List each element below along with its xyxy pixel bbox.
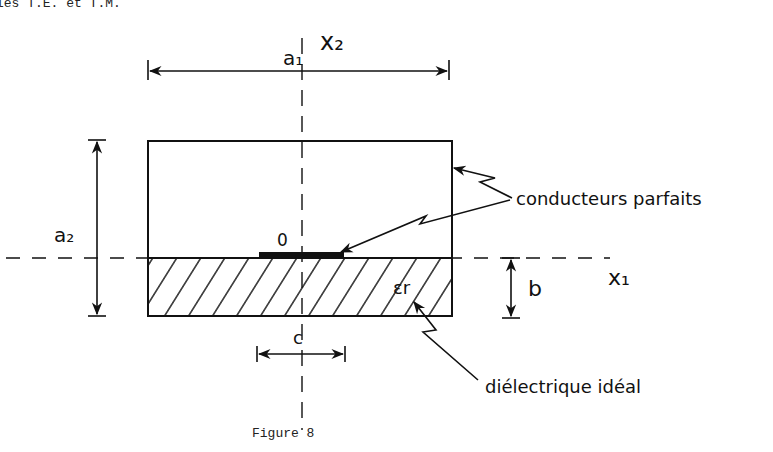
a1-label: a₁ bbox=[283, 46, 303, 70]
c-dimension bbox=[257, 346, 345, 362]
waveguide-diagram: x₂ a₁ a₂ 0 b x₁ εr c conducteurs parfait… bbox=[0, 0, 773, 452]
dielectric-label: diélectrique idéal bbox=[485, 376, 641, 397]
c-label: c bbox=[293, 327, 303, 348]
epsilon-r-label: εr bbox=[393, 277, 411, 298]
x1-label: x₁ bbox=[608, 265, 630, 290]
conductor-pointers bbox=[341, 168, 512, 252]
a2-dimension bbox=[88, 140, 106, 316]
x2-label: x₂ bbox=[320, 28, 344, 56]
strip-conductor bbox=[259, 252, 344, 258]
conductors-label: conducteurs parfaits bbox=[516, 188, 702, 209]
figure-caption: Figure 8 bbox=[252, 426, 314, 441]
origin-label: 0 bbox=[277, 230, 288, 250]
b-label: b bbox=[528, 276, 542, 301]
b-dimension bbox=[502, 258, 520, 318]
a2-label: a₂ bbox=[54, 223, 74, 247]
